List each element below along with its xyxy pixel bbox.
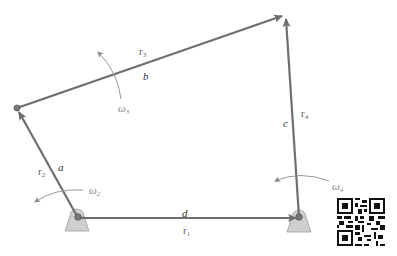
label-omega3: ω3 (118, 102, 130, 116)
link-a-r2 (19, 112, 77, 216)
label-r1: r1 (183, 224, 191, 238)
joint-a (14, 105, 20, 111)
label-a: a (58, 161, 64, 173)
pivot-o2 (75, 214, 81, 220)
label-r3: r3 (139, 45, 147, 59)
link-c-r4 (286, 19, 299, 217)
label-omega4: ω4 (332, 180, 344, 194)
label-r4: r4 (301, 107, 309, 121)
label-c: c (283, 117, 288, 129)
label-d: d (182, 207, 188, 219)
label-omega2: ω2 (89, 184, 101, 198)
omega4-arc (275, 176, 329, 182)
omega2-arc (35, 190, 83, 202)
pivot-o4 (296, 214, 302, 220)
label-b: b (143, 70, 149, 82)
link-b-r3 (17, 16, 282, 108)
qr-code (337, 198, 385, 246)
label-r2: r2 (38, 165, 46, 179)
